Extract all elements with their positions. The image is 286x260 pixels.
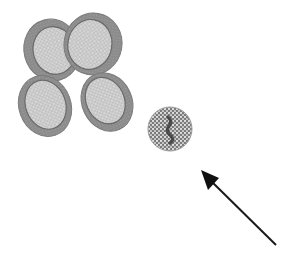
pointer-arrow: [201, 170, 276, 245]
spherocyte-cell: [148, 107, 192, 151]
red-blood-cell-lower-left: [10, 68, 80, 144]
blood-cell-diagram: [0, 0, 286, 260]
red-blood-cell-lower-right: [72, 64, 143, 140]
